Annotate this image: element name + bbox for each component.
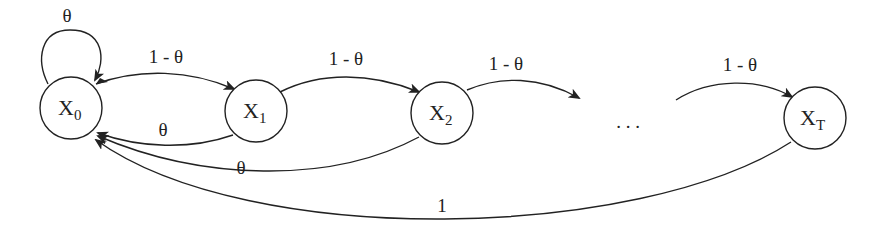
node-subscript: 2 [445,112,453,128]
markov-chain-diagram: θ 1 - θ θ 1 - θ θ 1 - θ . . . 1 - θ 1 X0… [0,0,891,244]
node-label: X [429,100,445,125]
edge-ellipsis-xt [676,83,792,100]
ellipsis: . . . [616,111,640,132]
node-label: X [58,95,74,120]
node-label: X [800,105,816,130]
edge-x2-ellipsis [467,80,579,98]
node-x2: X2 [411,82,473,144]
edge-x0-x0 [42,30,101,84]
edge-label-xt-x0: 1 [437,195,447,216]
edge-label-x1-x2: 1 - θ [329,48,363,69]
edge-x0-x1 [96,73,234,89]
edge-label-x2-x0: θ [236,157,245,178]
edge-label-x0-x1: 1 - θ [149,46,183,67]
node-subscript: 0 [74,107,82,123]
node-x1: X1 [225,80,287,142]
node-subscript: 1 [259,110,267,126]
node-xt: XT [784,87,846,149]
edge-label-ellipsis-xt: 1 - θ [723,54,757,75]
node-x0: X0 [40,77,102,139]
edge-label-x1-x0: θ [158,119,167,140]
node-subscript: T [816,117,825,133]
edge-label-x0-x0: θ [62,5,71,26]
edge-x1-x2 [280,77,419,92]
edge-label-x2-ellipsis: 1 - θ [489,53,523,74]
node-label: X [243,98,259,123]
